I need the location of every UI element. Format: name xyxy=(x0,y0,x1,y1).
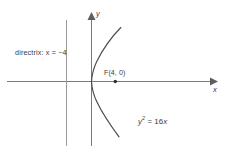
focus-point xyxy=(114,80,117,83)
equation-remainder: = 16x xyxy=(145,117,167,126)
y-axis-label: y xyxy=(96,10,100,18)
figure-canvas xyxy=(0,0,229,153)
directrix-label: directrix: x = −4 xyxy=(15,49,67,56)
focus-label: F(4, 0) xyxy=(104,69,125,76)
y-axis-arrow-icon xyxy=(88,12,96,20)
x-axis-label: x xyxy=(213,86,217,94)
parabola-figure: directrix: x = −4 F(4, 0) y x y2 = 16x xyxy=(0,0,229,153)
equation-label: y2 = 16x xyxy=(138,116,167,125)
